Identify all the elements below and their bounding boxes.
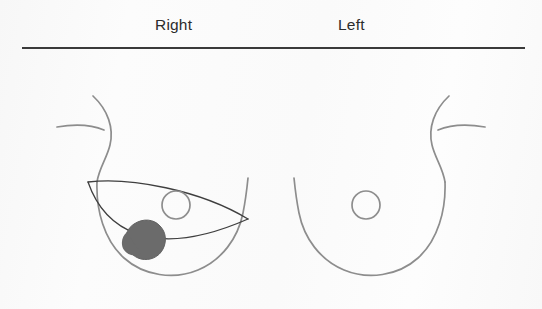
right-clavicle-line (57, 125, 104, 130)
left-breast-group (294, 96, 485, 275)
right-lens-marking-upper (88, 181, 248, 219)
right-lens-marking-lower (88, 182, 248, 239)
left-axillary-curve (431, 96, 449, 182)
right-nipple-circle (162, 191, 190, 219)
left-nipple-circle (352, 191, 380, 219)
right-axillary-curve (93, 96, 111, 182)
left-breast-contour (294, 178, 445, 275)
left-clavicle-line (438, 125, 485, 130)
breast-diagram-svg (0, 0, 542, 309)
right-breast-contour (97, 178, 248, 275)
breast-diagram-page: Right Left (0, 0, 542, 309)
right-breast-group (57, 96, 248, 275)
